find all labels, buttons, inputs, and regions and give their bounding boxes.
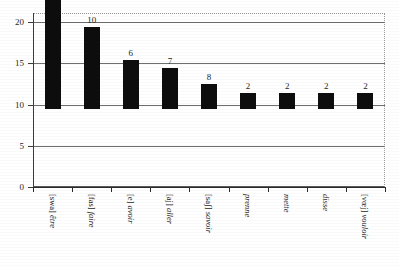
x-tick-label: [aj] aller <box>165 194 174 224</box>
bar-rect <box>240 93 256 110</box>
bar-value-label: 2 <box>285 82 290 91</box>
bar-rect <box>201 84 217 109</box>
bar-value-label: 6 <box>129 49 134 58</box>
bar-value-label: 10 <box>87 16 96 25</box>
bar-value-label: 8 <box>207 73 212 82</box>
verb-form: être <box>48 215 58 228</box>
ipa-transcription: [swa] <box>48 194 58 215</box>
ipa-transcription: [vœj] <box>360 194 370 215</box>
ipa-transcription: [saʃ] <box>204 194 214 212</box>
bar-rect <box>279 93 295 110</box>
x-tick-label: prenne <box>243 194 252 217</box>
x-tick-label: disse <box>321 194 330 211</box>
x-tick-label: [saʃ] savoir <box>204 194 213 233</box>
bar-rect <box>84 27 100 110</box>
ipa-transcription: [fas] <box>87 194 97 212</box>
bar-value-label: 7 <box>168 57 173 66</box>
x-tick-label: [vœj] vouloir <box>360 194 369 239</box>
bar-rect <box>357 93 373 110</box>
ipa-transcription: [aj] <box>165 194 175 208</box>
bar-rect <box>162 68 178 109</box>
ipa-transcription: [e] <box>126 194 136 206</box>
verb-form: aller <box>165 208 175 224</box>
x-tick-label: [e] avoir <box>126 194 135 224</box>
verb-form: savoir <box>204 212 214 233</box>
bar-chart-figure: 05101520 20106782222 [swa] être[fas] fai… <box>0 0 399 266</box>
bar-rect <box>318 93 334 110</box>
verb-form: prenne <box>243 194 253 217</box>
bar-rect <box>123 60 139 110</box>
verb-form: mette <box>282 194 292 212</box>
bar-value-label: 2 <box>324 82 329 91</box>
verb-form: disse <box>321 194 331 211</box>
x-tick-label: [fas] faire <box>87 194 96 227</box>
x-tick-label: mette <box>282 194 291 212</box>
verb-form: avoir <box>126 206 136 224</box>
bar-value-label: 2 <box>246 82 251 91</box>
bar-value-label: 2 <box>363 82 368 91</box>
bars-group: 20106782222 <box>0 0 399 188</box>
verb-form: vouloir <box>360 215 370 240</box>
bar-rect <box>45 0 61 109</box>
verb-form: faire <box>87 212 97 228</box>
x-tick-label: [swa] être <box>48 194 57 228</box>
